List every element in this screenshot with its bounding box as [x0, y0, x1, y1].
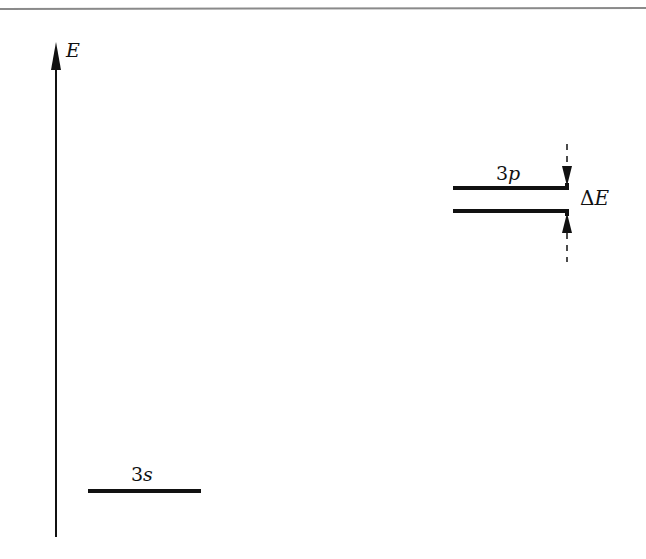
level-3s: 3s [88, 463, 201, 491]
axis-label: E [65, 39, 80, 61]
energy-axis: E [51, 39, 80, 537]
arrow-up-icon [562, 213, 572, 233]
level-3p-label: 3p [496, 162, 520, 184]
delta-e-label: ΔE [580, 186, 609, 210]
splitting-indicator: ΔE [562, 144, 609, 262]
axis-arrow-icon [51, 42, 61, 70]
level-3p-lower-line [453, 211, 567, 216]
energy-level-diagram: E 3p ΔE 3s [0, 0, 646, 559]
level-3p: 3p [453, 162, 567, 216]
arrow-down-icon [562, 166, 572, 186]
level-3s-label: 3s [131, 463, 153, 485]
top-rule [0, 8, 646, 9]
